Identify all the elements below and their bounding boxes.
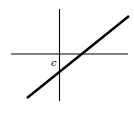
y-intercept-label: c (51, 57, 57, 68)
graph-canvas: c (0, 0, 134, 113)
linear-function-line (27, 16, 129, 98)
